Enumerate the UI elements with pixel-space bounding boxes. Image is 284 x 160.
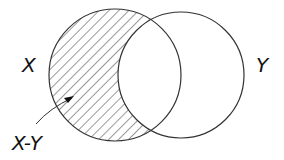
- venn-diagram: X Y X-Y: [0, 0, 284, 160]
- set-x-label: X: [21, 53, 37, 77]
- set-y-label: Y: [256, 53, 270, 77]
- shaded-region-x-minus-y: [0, 0, 284, 160]
- difference-label: X-Y: [11, 131, 44, 155]
